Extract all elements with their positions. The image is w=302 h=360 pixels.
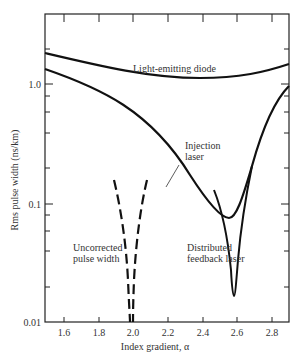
y-tick-label-0-01: 0.01 [24, 317, 42, 328]
injection-leader-line [166, 165, 179, 187]
x-axis-title: Index gradient, α [121, 341, 190, 352]
y-tick-label-1: 1.0 [29, 79, 42, 90]
x-tick-label: 1.6 [58, 327, 71, 338]
pulse-width-chart: Light-emitting diode Injection laser Dis… [0, 0, 302, 360]
label-dfb-1: Distributed [187, 242, 232, 253]
x-tick-label: 2.8 [266, 327, 279, 338]
label-dfb-2: feedback laser [187, 253, 245, 264]
x-tick-label: 2.6 [231, 327, 244, 338]
y-tick-label-0-1: 0.1 [29, 199, 42, 210]
y-ticks-right [281, 49, 289, 287]
x-tick-label: 2.4 [197, 327, 210, 338]
label-uncorrected-1: Uncorrected [73, 242, 122, 253]
label-uncorrected-2: pulse width [73, 253, 119, 264]
curve-injection-laser [45, 69, 289, 218]
label-injection-1: Injection [185, 140, 221, 151]
y-ticks-left [45, 49, 53, 287]
x-tick-label: 2.0 [127, 327, 140, 338]
curve-uncorrected-right [133, 180, 147, 322]
label-injection-2: laser [185, 151, 205, 162]
x-tick-label: 2.2 [162, 327, 175, 338]
y-axis-title: Rms pulse width (ns/km) [9, 130, 21, 231]
x-ticks-bottom [64, 317, 272, 322]
x-ticks-top [64, 14, 272, 22]
x-tick-label: 1.8 [93, 327, 106, 338]
label-led: Light-emitting diode [133, 63, 217, 74]
